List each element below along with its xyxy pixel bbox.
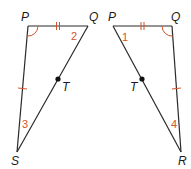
left-point-t xyxy=(55,76,60,81)
right-label-t: T xyxy=(130,80,139,94)
left-ps-tick xyxy=(18,88,27,89)
congruent-triangles-diagram: P Q T S 2 3 P Q T R 1 4 xyxy=(0,0,191,169)
right-segment-pr xyxy=(113,26,181,152)
right-angle-4-label: 4 xyxy=(171,118,177,130)
left-angle-2-label: 2 xyxy=(71,30,77,42)
left-angle-3-label: 3 xyxy=(22,118,28,130)
right-angle-q-arc xyxy=(162,26,173,36)
right-angle-1-label: 1 xyxy=(122,31,128,43)
right-qr-tick xyxy=(172,88,181,89)
left-label-p: P xyxy=(21,10,29,24)
right-point-t xyxy=(139,76,144,81)
left-label-s: S xyxy=(11,154,19,168)
left-label-t: T xyxy=(62,80,71,94)
right-label-p: P xyxy=(108,10,116,24)
right-figure: P Q T R 1 4 xyxy=(108,10,187,168)
left-segment-qs xyxy=(17,26,88,152)
left-figure: P Q T S 2 3 xyxy=(11,10,98,168)
right-label-r: R xyxy=(178,154,187,168)
right-label-q: Q xyxy=(171,10,180,24)
left-label-q: Q xyxy=(89,10,98,24)
left-angle-p-arc xyxy=(27,26,38,36)
